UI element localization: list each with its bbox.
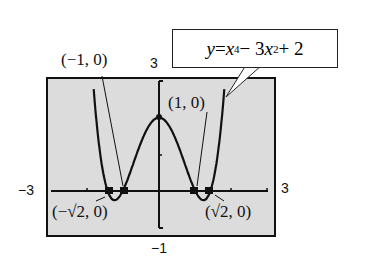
xmin-label: −3 (18, 182, 34, 198)
ymax-label: 3 (150, 55, 158, 71)
xmax-label: 3 (281, 180, 289, 196)
label-point-pos-sqrt2: (√2, 0) (205, 202, 251, 222)
label-point-pos1: (1, 0) (168, 93, 205, 113)
label-point-neg-sqrt2: (−√2, 0) (52, 202, 108, 222)
ymin-label: −1 (151, 240, 167, 256)
callout-pointer (226, 65, 262, 97)
equation-callout: y = x4 − 3x2 + 2 (172, 29, 338, 68)
label-point-neg1: (−1, 0) (61, 50, 107, 70)
